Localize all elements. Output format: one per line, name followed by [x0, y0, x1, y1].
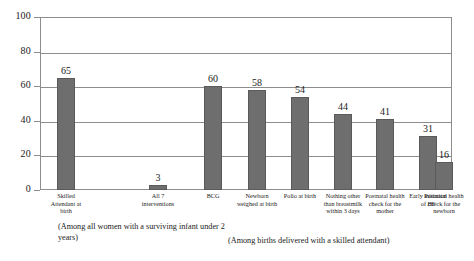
bar-value-label: 60 — [208, 73, 218, 84]
y-tick-label-20: 20 — [21, 148, 31, 160]
bar-value-label: 58 — [252, 77, 262, 88]
bar[interactable] — [435, 162, 453, 190]
y-tick-label-100: 100 — [15, 10, 31, 22]
x-axis-category-label: Newborn weighed at birth — [236, 192, 278, 207]
bar-value-label: 44 — [338, 101, 348, 112]
bar[interactable] — [334, 114, 352, 190]
y-tick-label-0: 0 — [26, 183, 31, 195]
bar-slot: 60 — [204, 17, 222, 190]
group-caption-right: (Among births delivered with a skilled a… — [228, 236, 458, 247]
bar-value-label: 31 — [423, 123, 433, 134]
x-axis-category-label: Postnatal health check for the newborn — [423, 192, 465, 215]
y-tick-label-40: 40 — [21, 114, 31, 126]
y-tick-label-60: 60 — [21, 79, 31, 91]
bar[interactable] — [291, 97, 309, 190]
bar-value-label: 65 — [61, 65, 71, 76]
bar[interactable] — [149, 185, 167, 190]
bar[interactable] — [57, 78, 75, 190]
bar-value-label: 3 — [156, 172, 161, 183]
bar-slot: 16 — [435, 17, 453, 190]
x-axis-category-label: Skilled Attendant at birth — [45, 192, 87, 215]
bar-value-label: 16 — [439, 149, 449, 160]
y-tick-label-80: 80 — [21, 45, 31, 57]
bar-slot: 65 — [57, 17, 75, 190]
y-tick-mark-0 — [34, 190, 40, 191]
bar-slot: 41 — [376, 17, 394, 190]
x-axis-category-label: Postnatal health check for the mother — [364, 192, 406, 215]
bar-value-label: 41 — [380, 106, 390, 117]
chart-page: 100 80 60 40 20 0 65360585444413116 Skil… — [0, 0, 474, 261]
x-axis-category-label: All 7 interventions — [137, 192, 179, 207]
bar-value-label: 54 — [295, 84, 305, 95]
bar-slot: 44 — [334, 17, 352, 190]
bar[interactable] — [376, 119, 394, 190]
bar-slot: 54 — [291, 17, 309, 190]
bar[interactable] — [204, 86, 222, 190]
group-caption-left: (Among all women with a surviving infant… — [58, 222, 238, 243]
x-axis-category-label: BCG — [192, 192, 234, 200]
bar-slot: 3 — [149, 17, 167, 190]
bars-layer: 65360585444413116 — [40, 17, 452, 190]
x-axis-category-label: Nothing other than breastmilk within 3 d… — [322, 192, 364, 215]
x-axis-category-label: Polio at birth — [279, 192, 321, 200]
bar-slot: 58 — [248, 17, 266, 190]
y-axis: 100 80 60 40 20 0 — [0, 17, 40, 190]
bar[interactable] — [248, 90, 266, 190]
